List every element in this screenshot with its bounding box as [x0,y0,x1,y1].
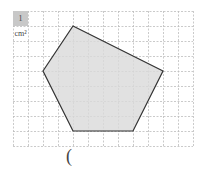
grid-figure [0,0,204,178]
pentagon-shape [43,26,163,131]
unit-square-label: 1 cm² [13,11,28,26]
answer-blank: ( [66,146,72,167]
